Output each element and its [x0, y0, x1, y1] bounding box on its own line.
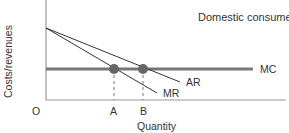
- ar-label: AR: [186, 77, 201, 88]
- ar-line: [46, 28, 180, 82]
- origin-label: O: [32, 106, 40, 117]
- mr-label: MR: [163, 88, 179, 99]
- diagram-title: Domestic consumers: [198, 12, 289, 23]
- y-axis-label: Costs/revenues: [3, 25, 14, 98]
- point-a-marker: [109, 64, 119, 74]
- point-b-marker: [138, 64, 148, 74]
- quantity-a-label: A: [110, 106, 117, 117]
- quantity-b-label: B: [140, 106, 147, 117]
- mc-label: MC: [260, 64, 276, 75]
- x-axis-label: Quantity: [137, 121, 176, 132]
- mr-line: [46, 28, 157, 93]
